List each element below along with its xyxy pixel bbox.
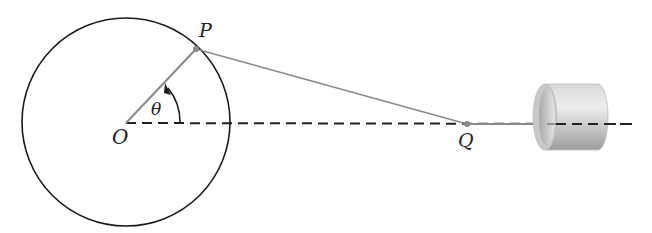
label-P: P [198, 19, 213, 41]
label-theta: θ [151, 99, 161, 119]
diagram-canvas: P O θ Q [0, 0, 652, 233]
label-Q: Q [458, 129, 474, 151]
angle-arrow-icon [164, 83, 171, 95]
joint-Q [464, 121, 470, 127]
crank-slider-diagram: P O θ Q [0, 0, 652, 233]
cylinder-sleeve [533, 84, 608, 150]
label-O: O [112, 125, 128, 149]
connecting-rod-PQ [196, 49, 467, 124]
joint-P [193, 46, 199, 52]
